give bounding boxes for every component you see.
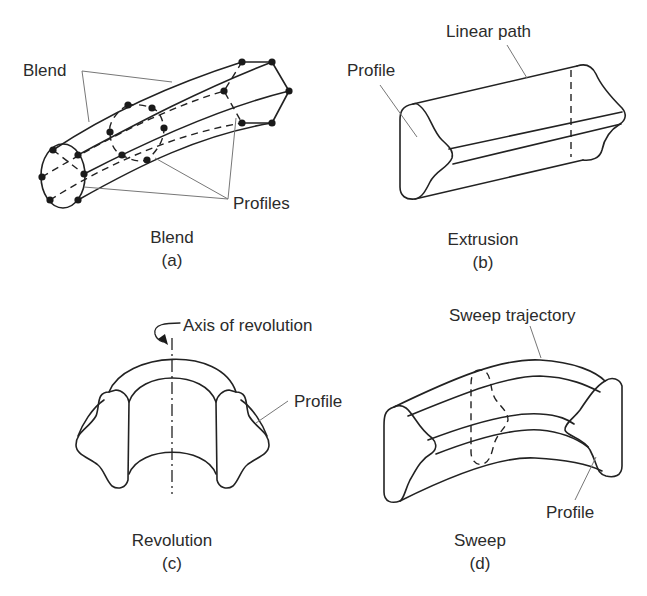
caption-title-b: Extrusion: [448, 230, 519, 249]
callout-axis-of-revolution: Axis of revolution: [183, 316, 312, 335]
caption-letter-c: (c): [162, 554, 182, 573]
callout-profiles: Profiles: [233, 194, 290, 213]
callout-profile-c: Profile: [294, 392, 342, 411]
profile-points: [38, 58, 292, 203]
panel-sweep: Sweep trajectory Profile Sweep (d): [384, 306, 622, 573]
callout-blend: Blend: [23, 61, 66, 80]
caption-letter-d: (d): [470, 554, 491, 573]
caption-title-c: Revolution: [132, 531, 212, 550]
caption-letter-a: (a): [162, 251, 183, 270]
panel-extrusion: Linear path Profile Extrusion (b): [347, 22, 625, 272]
callout-profile-b: Profile: [347, 61, 395, 80]
panel-revolution: Axis of revolution Profile Revolution (c…: [76, 316, 342, 573]
panel-blend: Blend Profiles Blend (a): [23, 58, 293, 270]
callout-profile-d: Profile: [546, 503, 594, 522]
callout-linear-path: Linear path: [446, 22, 531, 41]
caption-title-d: Sweep: [454, 531, 506, 550]
callout-sweep-trajectory: Sweep trajectory: [449, 306, 576, 325]
solid-modeling-operations-figure: Blend Profiles Blend (a) Linear path Pro…: [0, 0, 647, 596]
caption-letter-b: (b): [473, 253, 494, 272]
caption-title-a: Blend: [150, 228, 193, 247]
